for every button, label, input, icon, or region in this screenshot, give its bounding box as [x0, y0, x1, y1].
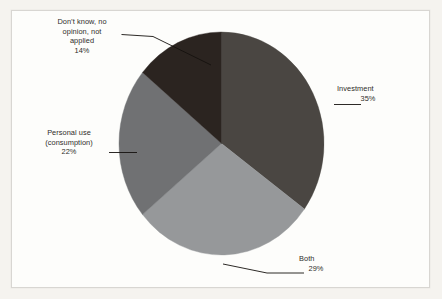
pie-label-investment-line1: Investment: [337, 84, 429, 94]
pie-label-both-line1: Both: [299, 254, 359, 264]
pie-label-dont-know: Don’t know, no opinion, not applied 14%: [34, 17, 130, 55]
pie-label-both-value: 29%: [299, 264, 333, 274]
pie-label-both: Both 29%: [299, 254, 359, 273]
pie-label-personal-use-line1: Personal use: [18, 128, 120, 138]
pie-label-dont-know-line3: applied: [34, 36, 130, 46]
pie-label-personal-use-value: 22%: [18, 147, 120, 157]
pie-label-dont-know-line2: opinion, not: [34, 27, 130, 37]
leader-line-both: [223, 264, 304, 273]
pie-label-personal-use-line2: (consumption): [18, 138, 120, 148]
pie-label-dont-know-value: 14%: [34, 46, 130, 56]
pie-slices-group: [119, 32, 324, 255]
chart-page: Don’t know, no opinion, not applied 14% …: [0, 0, 442, 299]
pie-label-dont-know-line1: Don’t know, no: [34, 17, 130, 27]
pie-label-personal-use: Personal use (consumption) 22%: [18, 128, 120, 157]
pie-label-investment-value: 35%: [337, 94, 399, 104]
pie-label-investment: Investment 35%: [337, 84, 429, 103]
